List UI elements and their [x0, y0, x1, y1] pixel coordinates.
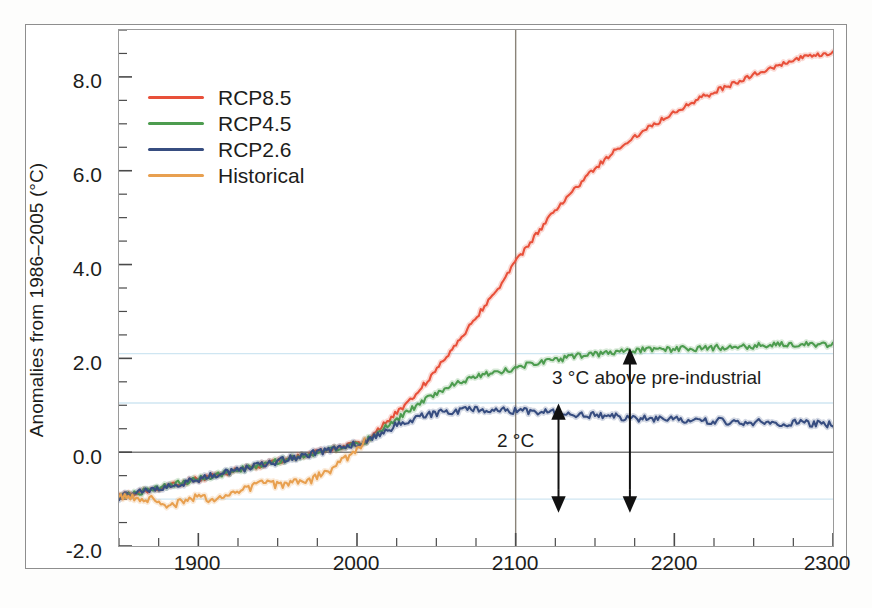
y-tick-label: 8.0: [40, 70, 102, 91]
x-axis-tick-labels: 1900 2000 2100 2200 2300: [118, 552, 834, 582]
legend-item-label: RCP2.6: [218, 139, 292, 160]
y-axis-tick-labels: 8.0 6.0 4.0 2.0 0.0 -2.0: [40, 29, 102, 547]
x-tick-label: 2100: [455, 552, 575, 573]
legend-item-label: RCP4.5: [218, 113, 292, 134]
x-tick-label: 2000: [296, 552, 416, 573]
legend-item-label: Historical: [218, 165, 304, 186]
annotation-2c: 2 °C: [497, 431, 534, 450]
legend: RCP8.5 RCP4.5 RCP2.6 Historical: [148, 84, 358, 188]
y-tick-label: -2.0: [40, 540, 102, 561]
y-tick-label: 4.0: [40, 258, 102, 279]
legend-item[interactable]: RCP2.6: [148, 136, 358, 162]
climate-projection-figure: Anomalies from 1986–2005 (°C) 8.0 6.0 4.…: [0, 0, 872, 608]
annotation-3c-above-preindustrial: 3 °C above pre-industrial: [552, 368, 761, 387]
y-tick-label: 2.0: [40, 352, 102, 373]
legend-swatch-icon: [148, 96, 204, 99]
legend-item[interactable]: RCP8.5: [148, 84, 358, 110]
y-tick-label: 6.0: [40, 164, 102, 185]
legend-item-label: RCP8.5: [218, 87, 292, 108]
legend-item[interactable]: Historical: [148, 162, 358, 188]
x-tick-label: 2200: [614, 552, 734, 573]
x-tick-label: 1900: [137, 552, 257, 573]
legend-swatch-icon: [148, 122, 204, 125]
y-tick-label: 0.0: [40, 446, 102, 467]
x-tick-label: 2300: [767, 552, 872, 573]
legend-item[interactable]: RCP4.5: [148, 110, 358, 136]
legend-swatch-icon: [148, 148, 204, 151]
series-uncertainty-band-RCP2.6: [119, 407, 833, 500]
legend-swatch-icon: [148, 174, 204, 177]
